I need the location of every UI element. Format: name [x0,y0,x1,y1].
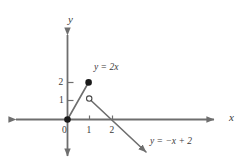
y-tick-label-1: 1 [59,96,64,106]
equation-label-rising: y = 2x [94,63,118,73]
coordinate-plane-svg [0,0,252,168]
x-axis-label: x [229,112,234,123]
line-segment-y-equals-minus-x-plus-2 [91,100,147,152]
x-axis [16,116,214,120]
y-axis-label: y [68,14,73,25]
open-point-1-1 [87,96,92,101]
equation-label-falling: y = −x + 2 [150,137,192,147]
closed-point-origin [64,116,71,123]
graph-figure: y x 2 1 0 1 2 y = 2x y = −x + 2 [0,0,252,168]
x-tick-label-2: 2 [110,126,115,136]
x-tick-label-1: 1 [87,126,92,136]
closed-point-1-2 [85,79,92,86]
origin-label: 0 [62,126,67,136]
y-tick-label-2: 2 [59,78,64,88]
y-axis [68,35,74,156]
